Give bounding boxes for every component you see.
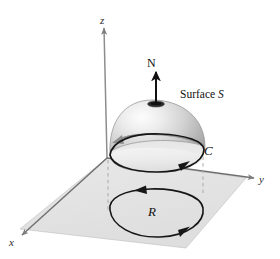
surface-label: Surface S <box>180 89 224 101</box>
surface-label-prefix: Surface <box>180 88 218 100</box>
surface-s-dome <box>110 100 205 172</box>
boundary-curve-label: C <box>204 144 213 157</box>
axis-label-y: y <box>259 174 264 185</box>
xy-plane <box>20 158 246 248</box>
stokes-theorem-figure: z y x N Surface S C R <box>0 0 280 259</box>
axis-label-z: z <box>100 15 104 26</box>
normal-vector-label: N <box>147 57 156 69</box>
z-axis <box>104 28 107 158</box>
region-label: R <box>148 205 156 218</box>
axis-label-x: x <box>9 237 14 248</box>
plane-surface <box>20 158 246 248</box>
surface-label-symbol: S <box>218 88 224 100</box>
figure-canvas <box>0 0 280 259</box>
